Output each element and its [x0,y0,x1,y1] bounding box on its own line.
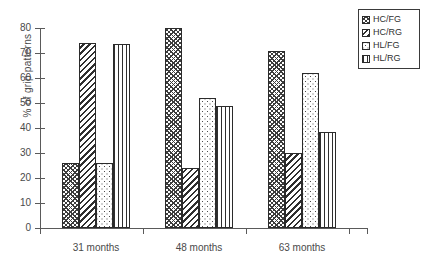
y-tick-label: 30 [20,148,31,158]
y-tick-label: 60 [20,73,31,83]
legend-item-hc-fg[interactable]: HC/FG [362,13,417,26]
bar-hc-fg-0 [62,163,79,228]
bar-hc-fg-1 [165,28,182,228]
y-tick-label: 40 [20,123,31,133]
bar-hl-fg-2 [302,73,319,228]
legend-swatch-icon [362,16,370,24]
legend-label: HL/FG [373,41,400,50]
y-tick-label: 70 [20,48,31,58]
legend-swatch-icon [362,29,370,37]
bar-hc-fg-2 [268,51,285,229]
bar-hc-rg-2 [285,153,302,228]
category-label: 48 months [176,242,223,253]
y-tick [35,153,45,154]
legend-swatch-icon [362,42,370,50]
category-label: 31 months [73,242,120,253]
legend-swatch-icon [362,55,370,63]
y-tick-label: 10 [20,198,31,208]
legend: HC/FGHC/RGHL/FGHL/RG [358,9,420,69]
legend-label: HC/FG [373,15,401,24]
bar-hl-rg-2 [319,132,336,228]
x-tick [40,228,41,234]
bar-hc-rg-0 [79,43,96,228]
y-tick [35,128,45,129]
legend-label: HC/RG [373,28,402,37]
legend-item-hl-rg[interactable]: HL/RG [362,52,417,65]
y-tick [35,103,45,104]
bar-hl-rg-1 [216,106,233,229]
y-tick [35,203,45,204]
y-tick [35,53,45,54]
bar-hl-fg-0 [96,163,113,228]
x-tick [143,228,144,234]
legend-item-hl-fg[interactable]: HL/FG [362,39,417,52]
category-label: 63 months [279,242,326,253]
y-tick-label: 80 [20,23,31,33]
x-tick [349,228,350,234]
x-tick [246,228,247,234]
bar-hl-fg-1 [199,98,216,228]
y-tick-label: 0 [25,223,31,233]
bar-hl-rg-0 [113,44,130,228]
y-tick [35,178,45,179]
bar-chart: % of grip patterns 01020304050607080 31 … [0,0,426,258]
y-tick-label: 20 [20,173,31,183]
y-tick-label: 50 [20,98,31,108]
y-tick [35,78,45,79]
x-axis-line [40,228,367,229]
y-tick [35,28,45,29]
x-tick [367,228,368,234]
plot-area: 01020304050607080 31 months48 months63 m… [40,28,340,228]
bar-hc-rg-1 [182,168,199,228]
legend-label: HL/RG [373,54,401,63]
legend-item-hc-rg[interactable]: HC/RG [362,26,417,39]
